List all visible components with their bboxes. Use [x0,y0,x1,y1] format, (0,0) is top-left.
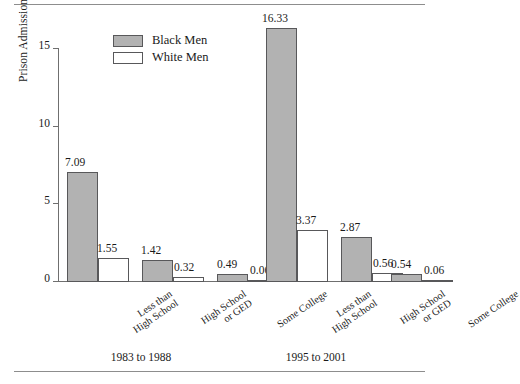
y-axis-tick-label: 10 [39,118,51,130]
bar-black-men [217,274,248,282]
bar-value-label: 0.49 [217,259,237,271]
category-label: Some College [275,288,330,330]
y-axis-tick-label: 15 [39,40,51,52]
category-label: Less thanHigh School [125,288,181,336]
bar-white-men [297,230,328,282]
y-axis-tick: 15 [53,48,58,49]
bar-white-men [422,280,453,283]
group-label: 1983 to 1988 [86,352,196,364]
bar-value-label: 1.55 [97,243,117,255]
y-axis-tick-label: 0 [44,273,50,285]
bar-black-men [341,237,372,282]
category-label: High Schoolor GED [199,288,255,336]
bar-black-men [142,260,173,282]
bar-value-label: 1.42 [141,245,161,257]
bar-black-men [67,172,98,282]
bar-value-label: 0.32 [174,262,194,274]
bar-black-men [391,274,422,282]
category-label-line: Some College [275,288,330,330]
bar-value-label: 16.33 [262,13,288,25]
bar-value-label: 0.06 [424,265,444,277]
y-axis-line [58,48,59,282]
bottom-divider-rule [14,371,425,372]
bar-value-label: 7.09 [65,157,85,169]
y-axis-title: Prison Admission Rate (Percentage) [17,0,29,82]
top-divider-rule [14,4,425,5]
bar-value-label: 3.37 [296,215,316,227]
bar-white-men [173,277,204,282]
plot-area: Prison Admission Rate (Percentage) 05101… [58,26,426,282]
bar-black-men [266,28,297,282]
y-axis-tick: 10 [53,126,58,127]
bar-value-label: 2.87 [340,222,360,234]
category-label: Less thanHigh School [324,288,380,336]
y-axis-tick: 0 [53,281,58,282]
bar-value-label: 0.54 [391,259,411,271]
y-axis-tick: 5 [53,203,58,204]
category-label: High Schoolor GED [398,288,454,336]
bar-white-men [98,258,129,282]
group-label: 1995 to 2001 [261,352,371,364]
y-axis-tick-label: 5 [44,195,50,207]
category-label-line: Some College [466,288,520,330]
category-label: Some College [466,288,520,330]
